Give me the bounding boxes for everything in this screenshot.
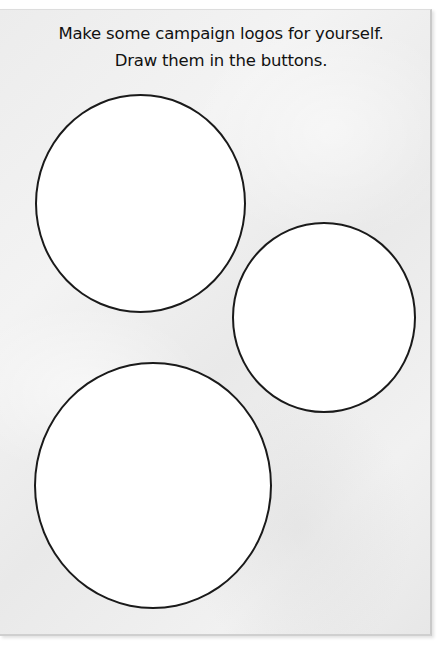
instructions: Make some campaign logos for yourself. D… [0,20,442,74]
campaign-button-drawing-area-2[interactable] [232,222,416,413]
campaign-button-drawing-area-3[interactable] [34,362,272,609]
page-canvas: Make some campaign logos for yourself. D… [0,0,442,646]
instruction-line-2: Draw them in the buttons. [0,47,442,74]
campaign-button-drawing-area-1[interactable] [35,94,246,313]
instruction-line-1: Make some campaign logos for yourself. [0,20,442,47]
